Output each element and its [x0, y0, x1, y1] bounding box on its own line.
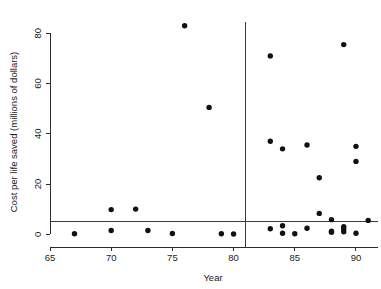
data-point [72, 231, 77, 236]
data-point [206, 105, 211, 110]
data-points [72, 23, 371, 237]
data-point [108, 228, 113, 233]
data-point [145, 228, 150, 233]
x-tick-label: 80 [228, 252, 239, 263]
data-point [219, 231, 224, 236]
y-tick-label: 40 [32, 128, 43, 139]
data-point [292, 231, 297, 236]
data-point [170, 231, 175, 236]
data-point [268, 226, 273, 231]
plot-canvas: 657075808590 020406080 Year Cost per lif… [0, 0, 381, 289]
x-tick-label: 90 [351, 252, 362, 263]
data-point [353, 144, 358, 149]
data-point [304, 226, 309, 231]
scatter-plot-figure: 657075808590 020406080 Year Cost per lif… [0, 0, 381, 289]
data-point [317, 175, 322, 180]
data-point [341, 229, 346, 234]
data-point [280, 231, 285, 236]
y-tick-label: 80 [32, 28, 43, 39]
data-point [329, 230, 334, 235]
data-point [182, 23, 187, 28]
data-point [304, 142, 309, 147]
data-point [231, 231, 236, 236]
data-point [366, 218, 371, 223]
data-point [268, 53, 273, 58]
x-axis-ticks: 657075808590 [45, 247, 362, 263]
y-axis-ticks: 020406080 [32, 28, 50, 237]
reference-lines [50, 22, 378, 247]
y-tick-label: 0 [32, 232, 43, 237]
data-point [341, 42, 346, 47]
y-tick-label: 20 [32, 179, 43, 190]
data-point [353, 231, 358, 236]
data-point [133, 206, 138, 211]
data-point [329, 217, 334, 222]
x-tick-label: 70 [106, 252, 117, 263]
data-point [353, 159, 358, 164]
data-point [317, 211, 322, 216]
data-point [108, 207, 113, 212]
data-point [268, 139, 273, 144]
data-point [280, 223, 285, 228]
x-tick-label: 65 [45, 252, 56, 263]
axes [50, 33, 378, 247]
x-tick-label: 85 [289, 252, 300, 263]
data-point [280, 146, 285, 151]
y-tick-label: 60 [32, 78, 43, 89]
x-axis-title: Year [203, 272, 222, 283]
x-tick-label: 75 [167, 252, 178, 263]
y-axis-title: Cost per life saved (millions of dollars… [8, 52, 19, 213]
